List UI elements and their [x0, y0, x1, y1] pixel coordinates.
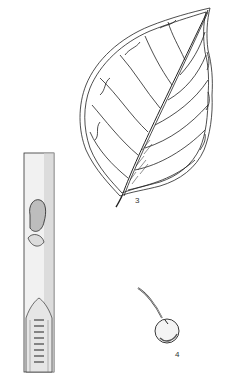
leaf-drawing: [80, 8, 212, 207]
fruit-drawing: [138, 288, 179, 343]
leaf-label: 3: [135, 196, 139, 205]
fruit-label: 4: [175, 350, 179, 359]
twig-drawing: [24, 153, 54, 372]
botanical-illustration: [0, 0, 232, 379]
